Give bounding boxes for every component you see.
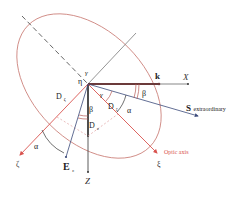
alpha-right-label: α (127, 106, 132, 115)
beta-lower-label: β (89, 105, 93, 114)
e-label-sub: ε (72, 168, 74, 173)
beta-arc-right-2 (134, 84, 136, 98)
k-vector-label: k (155, 71, 160, 81)
x-axis-end-dot (187, 83, 189, 85)
s-label-main: S (186, 103, 191, 113)
zeta-axis-label: ζ (16, 160, 20, 169)
optic-axis-dashed-extension (22, 16, 88, 84)
k-vector-tip (158, 83, 161, 86)
d-zeta-main: D (56, 92, 62, 101)
projection-dashed-zeta (57, 117, 88, 136)
beta-arc-right (137, 84, 139, 99)
gamma-arc-inner (106, 91, 112, 101)
e-label-main: E (63, 161, 70, 172)
optic-axis-label: Optic axis (164, 149, 189, 155)
e-epsilon-label: E ε (63, 161, 74, 173)
zeta-axis (20, 84, 88, 155)
alpha-arc-left (42, 130, 64, 153)
z-axis-end-dot (87, 171, 89, 173)
e-epsilon-tip (65, 156, 67, 158)
s-vector-label: S extraordinary (186, 103, 226, 113)
s-label-suffix: extraordinary (194, 106, 226, 112)
d-z-sub: z (97, 126, 100, 131)
x-axis-label: X (182, 72, 189, 82)
d-z-main: D (89, 121, 95, 130)
index-ellipse (0, 0, 189, 186)
d-z-label: D z (89, 121, 100, 131)
alpha-left-label: α (34, 142, 39, 151)
d-xi-main: D (108, 102, 114, 111)
beta-arc-lower (79, 115, 88, 116)
d-zeta-label: D ζ (56, 92, 66, 102)
beta-right-label: β (142, 89, 146, 98)
xi-axis-label: ξ (157, 160, 161, 169)
alpha-arc-right (117, 95, 126, 112)
beta-arc-lower-2 (78, 118, 88, 119)
z-axis-label: Z (85, 176, 91, 186)
gamma-top-label: γ (85, 69, 88, 77)
gamma-inner-label: γ (100, 91, 103, 99)
eta-label: η (78, 77, 82, 86)
d-xi-label: D ξ (108, 102, 119, 112)
d-zeta-sub: ζ (64, 97, 66, 102)
perpendicular-line (88, 33, 136, 84)
d-xi-sub: ξ (116, 107, 119, 112)
birefringence-diagram: X Z k S extraordinary E ε ζ ξ Optic axis… (0, 0, 248, 197)
